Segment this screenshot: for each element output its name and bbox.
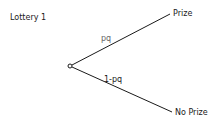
diagram-title: Lottery 1 — [10, 13, 46, 22]
chance-node — [68, 64, 72, 68]
probability-bottom-label: 1-pq — [104, 75, 122, 84]
probability-top-label: pq — [101, 34, 111, 43]
branch-prize — [72, 14, 170, 65]
no-prize-label: No Prize — [175, 108, 208, 117]
branch-no-prize — [72, 67, 172, 112]
prize-label: Prize — [173, 9, 192, 18]
